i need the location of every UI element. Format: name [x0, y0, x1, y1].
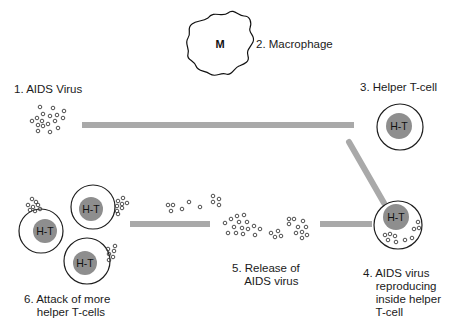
arrow-bar-infected-to-release [320, 221, 372, 227]
svg-text:H-T: H-T [390, 120, 408, 132]
arrow-bar-release-to-attack [130, 221, 210, 227]
arrow-bar-tcell-to-infected [349, 142, 384, 203]
helper-t-cell: H-T [377, 104, 423, 150]
label-helper-t-cell: 3. Helper T-cell [360, 81, 437, 94]
svg-text:H-T: H-T [36, 225, 54, 237]
label-release: 5. Release of AIDS virus [232, 262, 300, 288]
arrow-bar-virus-to-tcell [82, 122, 354, 128]
attacked-cell-left: H-T [19, 197, 63, 253]
label-aids-virus: 1. AIDS Virus [14, 83, 82, 96]
macrophage-letter: M [215, 38, 224, 50]
svg-text:H-T: H-T [387, 211, 405, 223]
infected-helper-t-cell: H-T [374, 201, 422, 249]
svg-text:H-T: H-T [82, 203, 100, 215]
svg-text:H-T: H-T [76, 257, 94, 269]
attacked-cell-top: H-T [71, 185, 129, 229]
virus-cluster-initial [30, 105, 66, 134]
label-macrophage: 2. Macrophage [256, 38, 333, 51]
macrophage: M [187, 11, 254, 75]
attacked-cell-bottom: H-T [64, 238, 117, 284]
label-attack: 6. Attack of more helper T-cells [24, 293, 110, 319]
label-reproducing: 4. AIDS virus reproducing inside helper … [363, 267, 441, 319]
virus-cluster-released [166, 194, 309, 240]
